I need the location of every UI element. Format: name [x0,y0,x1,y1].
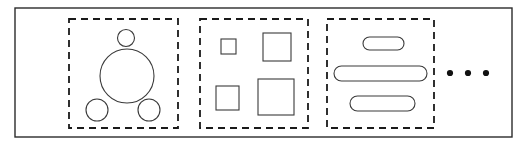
ellipsis-dot [447,70,453,76]
figure-root [0,0,526,145]
pill-group [327,19,434,128]
ellipsis-dot [465,70,471,76]
pill-medium-bottom [350,96,415,111]
square-large [258,79,294,115]
square-small [221,39,236,54]
circle-small-top [118,30,135,47]
circle-small-bottom-left [86,99,108,121]
square-medium [216,86,239,110]
pill-short-top [363,37,404,50]
circle-small-bottom-right [138,99,160,121]
ellipsis-dot [483,70,489,76]
square-medium-large [263,33,291,61]
continuation-ellipsis [447,70,489,76]
circle-large-center [100,49,154,103]
pill-long-middle [334,66,427,81]
square-group [200,19,308,128]
diagram-canvas [0,0,526,145]
circle-group [69,19,178,128]
